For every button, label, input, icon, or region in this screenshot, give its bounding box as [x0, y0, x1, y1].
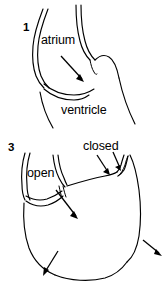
open-valve-leaflet-lower	[26, 196, 63, 206]
open-valve-leaflet-upper	[26, 191, 62, 200]
panel-number-3: 3	[8, 142, 14, 154]
ventricle-apex-p3	[55, 262, 127, 280]
center-vessel-tip2-p3	[63, 186, 66, 197]
ejection-arrow-right	[143, 240, 162, 256]
closed-valve-arrow-right	[113, 152, 121, 171]
label-ventricle: ventricle	[61, 104, 107, 117]
ventricle-right-wall-p3	[127, 155, 141, 262]
heart-valve-diagram: 1 3 atrium ventricle open closed	[0, 0, 168, 292]
panel-number-1: 1	[23, 22, 29, 34]
ventricle-right-wall-lower	[119, 78, 135, 124]
label-closed: closed	[83, 140, 119, 153]
ventricle-right-wall-upper	[95, 56, 119, 78]
center-vessel-inner-p3	[58, 155, 67, 185]
outflow-cusp-notch	[90, 60, 97, 74]
great-vessel-right-inner	[81, 5, 95, 60]
label-open: open	[27, 167, 54, 180]
av-valve-leaflet-upper	[44, 84, 94, 95]
closed-valve-arrow-left	[97, 155, 110, 175]
label-atrium: atrium	[41, 34, 75, 47]
ventricle-left-wall	[40, 92, 53, 128]
flow-arrow-through-open-valve	[56, 190, 78, 219]
flow-arrow-into-ventricle	[61, 56, 84, 82]
left-vessel-outer-p3	[22, 153, 25, 200]
